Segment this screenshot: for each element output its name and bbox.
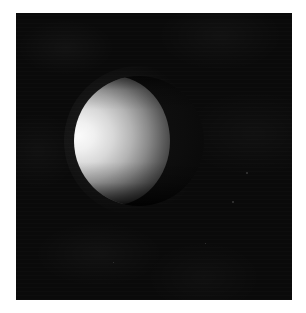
sky-speck: [232, 201, 234, 203]
sky-speck: [113, 262, 114, 263]
sky-frame: [16, 13, 292, 300]
planetary-disc: [74, 76, 204, 206]
sunlit-crescent: [74, 76, 170, 206]
sky-speck: [205, 243, 206, 244]
disc-lit-region: [74, 76, 204, 206]
image-canvas: [0, 0, 306, 313]
sky-speck: [246, 172, 248, 174]
